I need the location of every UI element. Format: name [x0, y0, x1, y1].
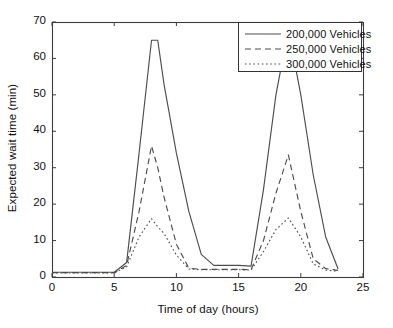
y-tick-label: 30: [20, 160, 46, 172]
legend-label: 250,000 Vehicles: [286, 43, 371, 55]
x-tick-label: 5: [101, 281, 127, 293]
y-axis-label-wrapper: Expected wait time (min): [0, 0, 22, 290]
x-tick-label: 10: [163, 281, 189, 293]
chart-figure: Expected wait time (min) Time of day (ho…: [0, 0, 393, 328]
y-tick-label: 20: [20, 196, 46, 208]
y-tick-label: 70: [20, 14, 46, 26]
chart-legend: 200,000 Vehicles250,000 Vehicles300,000 …: [238, 22, 362, 72]
x-tick-label: 0: [39, 281, 65, 293]
legend-line-sample-solid: [244, 28, 282, 40]
series-line-3: [52, 218, 338, 273]
x-tick-label: 20: [288, 281, 314, 293]
legend-line-sample-dashed: [244, 43, 282, 55]
series-line-2: [52, 146, 338, 273]
legend-label: 300,000 Vehicles: [286, 58, 371, 70]
legend-line-sample-dotted: [244, 58, 282, 70]
y-tick-label: 60: [20, 50, 46, 62]
legend-label: 200,000 Vehicles: [286, 28, 371, 40]
y-axis-label: Expected wait time (min): [6, 58, 18, 238]
x-tick-label: 25: [350, 281, 376, 293]
y-tick-label: 0: [20, 269, 46, 281]
y-tick-label: 50: [20, 87, 46, 99]
x-tick-label: 15: [226, 281, 252, 293]
y-tick-label: 40: [20, 123, 46, 135]
legend-item-2: 250,000 Vehicles: [239, 41, 361, 57]
y-tick-label: 10: [20, 233, 46, 245]
legend-item-3: 300,000 Vehicles: [239, 56, 361, 72]
x-axis-label: Time of day (hours): [52, 303, 364, 315]
legend-item-1: 200,000 Vehicles: [239, 26, 361, 42]
